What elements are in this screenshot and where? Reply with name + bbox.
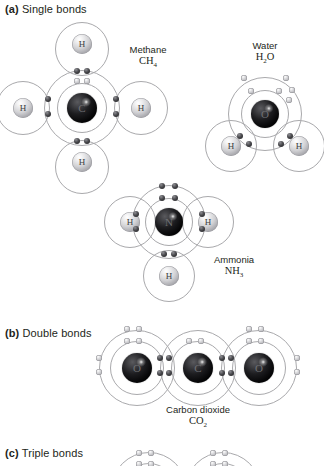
nucleus-hydrogen-bottom: H xyxy=(159,266,179,286)
electron-lone-pair xyxy=(289,87,295,93)
electron-lone-pair xyxy=(148,461,154,466)
molecule-name-carbon-dioxide: Carbon dioxide xyxy=(135,404,261,415)
electron-lone-pair xyxy=(186,338,192,344)
electron-bonding xyxy=(113,111,119,117)
molecule-formula-water: H2O xyxy=(229,51,301,67)
atom-label-hydrogen: H xyxy=(205,217,212,227)
electron-bonding xyxy=(133,226,139,232)
molecule-formula-methane: CH4 xyxy=(112,55,184,71)
section-tag-a: (a) xyxy=(5,3,19,15)
section-title-c: Triple bonds xyxy=(22,447,83,459)
electron-lone-pair xyxy=(148,450,154,456)
electron-bonding xyxy=(45,96,51,102)
label-ammonia: Ammonia NH3 xyxy=(196,254,272,281)
electron-double-bond xyxy=(166,370,172,376)
section-heading-triple-bonds: (c) Triple bonds xyxy=(5,447,83,459)
electron-bonding xyxy=(84,78,90,84)
atom-label-hydrogen: H xyxy=(20,103,27,113)
electron-lone-pair xyxy=(172,183,178,189)
nucleus-carbon: C xyxy=(183,353,213,383)
electron-lone-pair xyxy=(246,338,252,344)
atom-label-hydrogen: H xyxy=(296,141,303,151)
electron-lone-pair xyxy=(172,195,178,201)
electron-lone-pair xyxy=(248,88,254,94)
electron-double-bond xyxy=(219,370,225,376)
nucleus-hydrogen-left: H xyxy=(221,136,241,156)
label-carbon-dioxide: Carbon dioxide CO2 xyxy=(135,404,261,431)
electron-double-bond xyxy=(157,355,163,361)
molecule-formula-ammonia: NH3 xyxy=(196,265,272,281)
electron-double-bond xyxy=(228,370,234,376)
label-water: Water H2O xyxy=(229,40,301,67)
electron-lone-pair xyxy=(210,450,216,456)
atom-label-hydrogen: H xyxy=(138,103,145,113)
electron-bonding xyxy=(246,141,252,147)
electron-lone-pair xyxy=(136,326,142,332)
electron-bonding xyxy=(74,68,80,74)
electron-lone-pair xyxy=(294,355,300,361)
section-title-b: Double bonds xyxy=(23,327,92,339)
electron-lone-pair xyxy=(246,326,252,332)
electron-lone-pair xyxy=(222,450,228,456)
electron-bonding xyxy=(161,251,167,257)
electron-double-bond xyxy=(219,355,225,361)
electron-lone-pair xyxy=(96,369,102,375)
nucleus-hydrogen-right: H xyxy=(131,98,151,118)
electron-lone-pair xyxy=(136,338,142,344)
atom-label-carbon: C xyxy=(78,102,85,114)
nucleus-oxygen: O xyxy=(251,100,279,128)
electron-lone-pair xyxy=(136,450,142,456)
electron-bonding xyxy=(45,111,51,117)
nucleus-nitrogen: N xyxy=(155,208,183,236)
electron-bonding xyxy=(199,226,205,232)
atom-label-hydrogen: H xyxy=(228,141,235,151)
atom-label-carbon: C xyxy=(194,362,201,374)
electron-bonding xyxy=(74,78,80,84)
electron-lone-pair xyxy=(286,97,292,103)
section-tag-b: (b) xyxy=(5,327,19,339)
electron-lone-pair xyxy=(222,461,228,466)
electron-lone-pair xyxy=(258,338,264,344)
molecule-name-water: Water xyxy=(229,40,301,51)
atom-label-oxygen: O xyxy=(255,362,263,374)
electron-lone-pair xyxy=(276,88,282,94)
electron-bonding xyxy=(84,68,90,74)
electron-lone-pair xyxy=(210,461,216,466)
electron-bonding xyxy=(199,211,205,217)
electron-bonding xyxy=(84,138,90,144)
molecule-name-ammonia: Ammonia xyxy=(196,254,272,265)
electron-bonding xyxy=(74,138,80,144)
electron-lone-pair xyxy=(258,326,264,332)
atom-label-hydrogen: H xyxy=(79,157,86,167)
nucleus-oxygen-left: O xyxy=(122,353,152,383)
electron-lone-pair xyxy=(136,461,142,466)
section-tag-c: (c) xyxy=(5,447,19,459)
electron-lone-pair xyxy=(198,338,204,344)
label-methane: Methane CH4 xyxy=(112,44,184,71)
electron-lone-pair xyxy=(159,195,165,201)
atom-label-oxygen: O xyxy=(133,362,141,374)
atom-label-hydrogen: H xyxy=(166,271,173,281)
electron-bonding xyxy=(113,96,119,102)
molecule-formula-carbon-dioxide: CO2 xyxy=(135,415,261,431)
section-title-a: Single bonds xyxy=(22,3,87,15)
electron-bonding xyxy=(278,141,284,147)
molecule-name-methane: Methane xyxy=(112,44,184,55)
electron-bonding xyxy=(287,133,293,139)
electron-double-bond xyxy=(228,355,234,361)
electron-double-bond xyxy=(166,355,172,361)
electron-lone-pair xyxy=(241,75,247,81)
electron-lone-pair xyxy=(283,75,289,81)
nucleus-hydrogen-top: H xyxy=(72,34,92,54)
nucleus-hydrogen-bottom: H xyxy=(72,152,92,172)
section-heading-single-bonds: (a) Single bonds xyxy=(5,3,87,15)
section-heading-double-bonds: (b) Double bonds xyxy=(5,327,92,339)
electron-double-bond xyxy=(157,370,163,376)
electron-lone-pair xyxy=(294,369,300,375)
electron-lone-pair xyxy=(124,338,130,344)
figure-canvas: (a) Single bonds C H H H H xyxy=(0,0,324,466)
nucleus-carbon: C xyxy=(67,93,97,123)
electron-bonding xyxy=(171,251,177,257)
atom-label-oxygen: O xyxy=(261,108,269,120)
atom-label-hydrogen: H xyxy=(127,217,134,227)
